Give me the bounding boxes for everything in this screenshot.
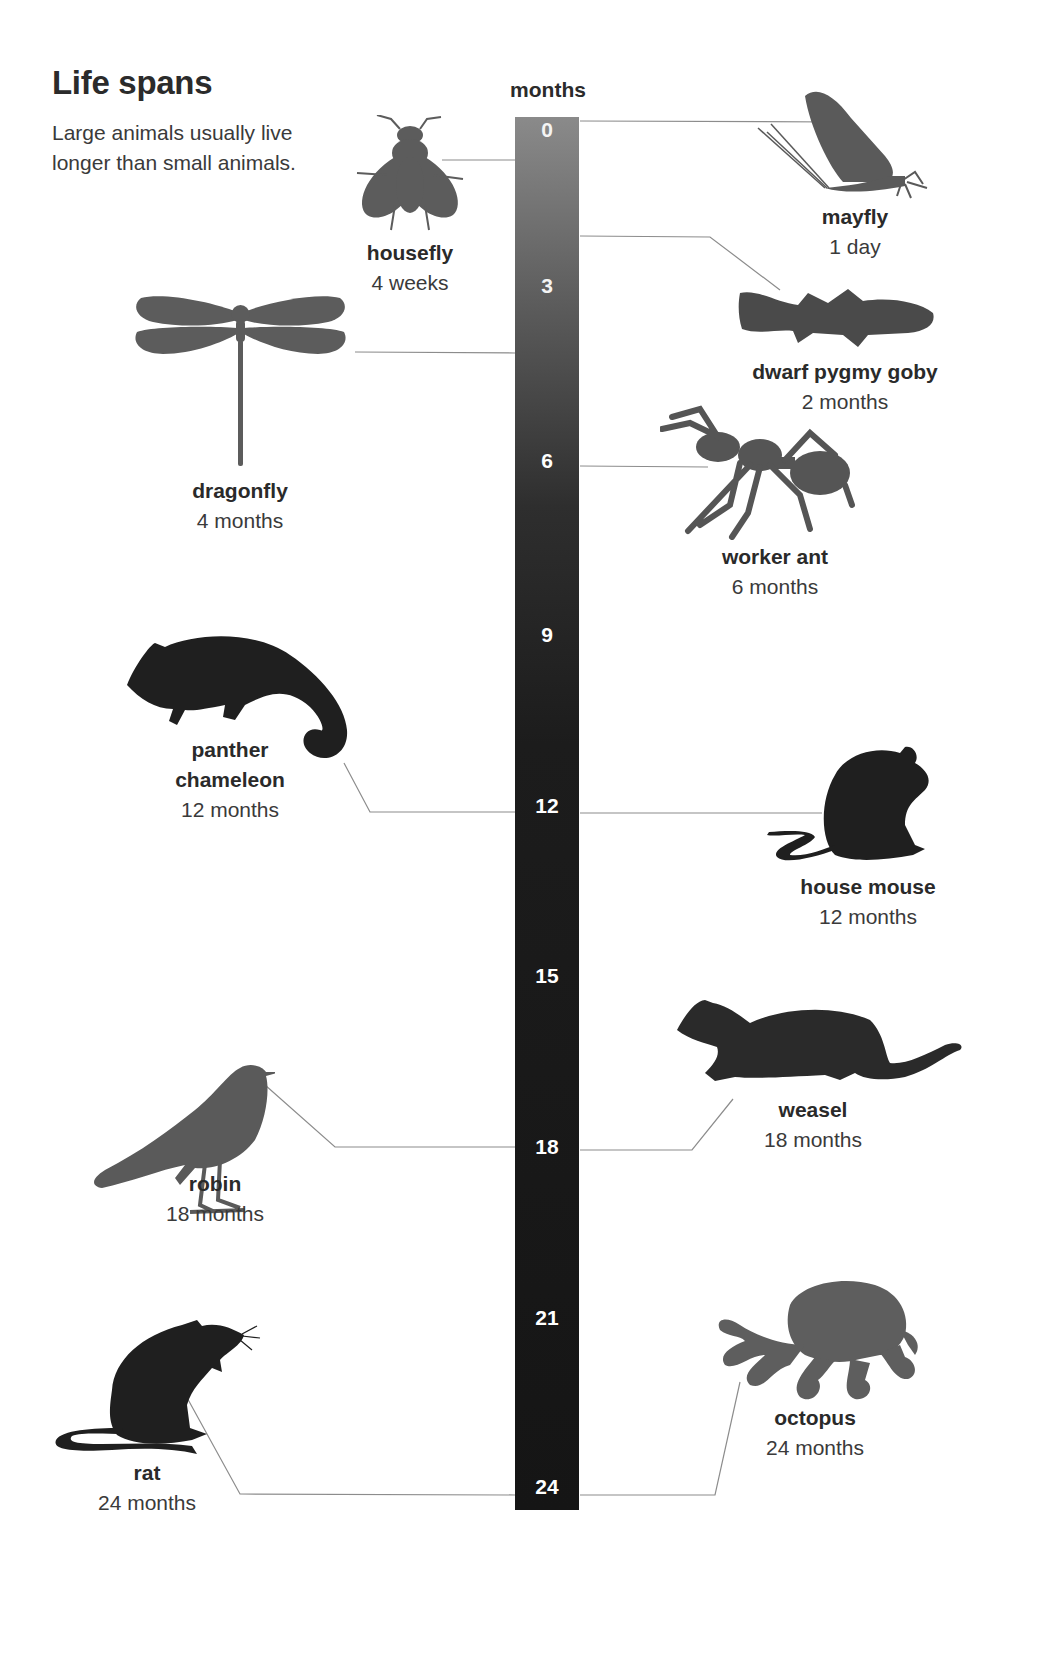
label-robin: robin 18 months (135, 1169, 295, 1229)
leader-dragonfly (355, 352, 515, 353)
label-mouse: house mouse 12 months (778, 872, 958, 932)
rat-icon (52, 1310, 262, 1460)
label-rat: rat 24 months (67, 1458, 227, 1518)
mayfly-icon (755, 88, 930, 203)
label-housefly: housefly 4 weeks (330, 238, 490, 298)
label-ant: worker ant 6 months (690, 542, 860, 602)
octopus-icon (710, 1275, 925, 1405)
dragonfly-icon (133, 292, 348, 470)
goby-icon (738, 283, 938, 353)
weasel-icon (675, 995, 965, 1090)
mouse-icon (765, 745, 945, 870)
label-dragonfly: dragonfly 4 months (160, 476, 320, 536)
housefly-icon (355, 115, 465, 233)
ant-icon (660, 405, 860, 540)
leader-chameleon (344, 763, 515, 812)
label-octopus: octopus 24 months (735, 1403, 895, 1463)
label-weasel: weasel 18 months (733, 1095, 893, 1155)
label-chameleon: panther chameleon 12 months (145, 735, 315, 825)
leader-weasel (580, 1099, 733, 1150)
leader-robin (256, 1077, 515, 1147)
leader-goby (580, 236, 780, 290)
label-mayfly: mayfly 1 day (775, 202, 935, 262)
